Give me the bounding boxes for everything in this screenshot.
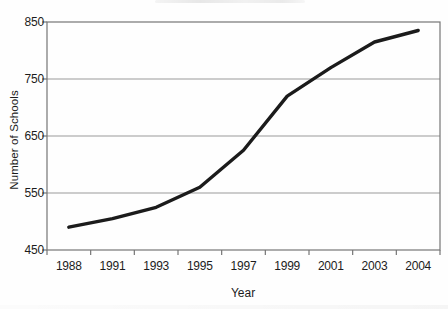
data-line bbox=[69, 31, 418, 228]
y-axis-title: Number of Schools bbox=[8, 90, 20, 190]
line-chart-figure: 450550650750850 198819911993199519971999… bbox=[0, 0, 448, 309]
plot-area bbox=[0, 0, 448, 309]
x-axis-title: Year bbox=[231, 286, 255, 300]
scan-edge-shade bbox=[0, 305, 448, 309]
